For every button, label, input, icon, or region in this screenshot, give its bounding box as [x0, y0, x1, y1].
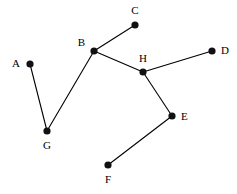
graph-edge-e-f: [108, 116, 172, 165]
graph-edge-b-c: [94, 25, 135, 51]
graph-node-a[interactable]: [26, 60, 33, 67]
graph-edge-a-g: [30, 64, 47, 131]
graph-node-h[interactable]: [139, 68, 146, 75]
graph-diagram: ABCDEFGH: [0, 0, 237, 194]
graph-edge-h-d: [143, 51, 212, 72]
graph-node-label-a: A: [12, 57, 20, 69]
labels-layer: ABCDEFGH: [12, 4, 229, 185]
graph-node-label-d: D: [221, 44, 229, 56]
graph-edge-g-b: [47, 51, 94, 131]
nodes-layer: [26, 21, 215, 168]
graph-edge-h-e: [143, 72, 172, 116]
graph-node-g[interactable]: [43, 127, 50, 134]
graph-node-e[interactable]: [168, 112, 175, 119]
graph-node-label-f: F: [105, 173, 111, 185]
graph-node-label-c: C: [131, 4, 138, 16]
graph-node-b[interactable]: [90, 47, 97, 54]
graph-canvas: ABCDEFGH: [0, 0, 237, 194]
graph-node-label-b: B: [78, 36, 85, 48]
graph-node-f[interactable]: [104, 161, 111, 168]
graph-node-label-e: E: [181, 110, 188, 122]
graph-edge-b-h: [94, 51, 143, 72]
graph-node-d[interactable]: [208, 47, 215, 54]
graph-node-label-h: H: [139, 52, 147, 64]
graph-node-c[interactable]: [131, 21, 138, 28]
edges-layer: [30, 25, 212, 165]
graph-node-label-g: G: [43, 139, 51, 151]
